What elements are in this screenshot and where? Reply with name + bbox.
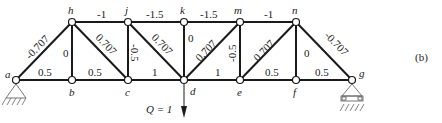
node-g [349,77,356,84]
force-fg: 0.5 [315,66,329,78]
node-label-n: n [292,4,298,16]
node-label-k: k [180,4,186,16]
node-f [293,77,300,84]
node-label-e: e [237,86,242,98]
force-jc: -0.5 [129,44,141,62]
node-label-f: f [293,86,298,98]
force-jk: -1.5 [146,8,164,20]
node-c [125,77,132,84]
node-n [293,19,300,26]
node-a [13,77,20,84]
node-label-d: d [190,85,196,97]
force-en: 0.707 [251,37,277,63]
node-j [125,19,132,26]
node-label-a: a [5,68,11,80]
node-e [237,77,244,84]
load-label: Q = 1 [146,103,172,115]
pin-support-a [2,84,26,105]
truss-diagram: a b c d e f g h j k m n -0.707 0.5 0 0.7… [0,0,442,123]
node-label-j: j [123,4,128,16]
node-b [69,77,76,84]
node-label-m: m [234,4,242,16]
node-label-c: c [125,86,130,98]
force-ef: 0.5 [265,66,279,78]
force-nf: 0 [304,47,310,59]
force-ab: 0.5 [38,66,52,78]
force-jd: 0.707 [150,31,176,57]
panel-label: (b) [415,51,428,64]
force-hb: 0 [63,47,69,59]
node-h [69,19,76,26]
force-me: -0.5 [226,44,238,62]
force-kd: 0 [188,32,194,44]
force-hc: 0.707 [94,31,120,57]
node-m [237,19,244,26]
force-km: -1.5 [200,8,218,20]
force-dm: 0.707 [193,37,219,63]
force-cd: 1 [152,66,158,78]
force-de: 1 [215,66,221,78]
force-bc: 0.5 [88,66,102,78]
force-mn: -1 [264,8,273,20]
roller-support-g [340,84,364,111]
node-label-h: h [68,4,74,16]
node-label-g: g [359,67,365,79]
node-d [181,77,188,84]
force-hj: -1 [97,8,106,20]
node-label-b: b [69,86,75,98]
load-arrow [181,84,187,118]
node-k [181,19,188,26]
